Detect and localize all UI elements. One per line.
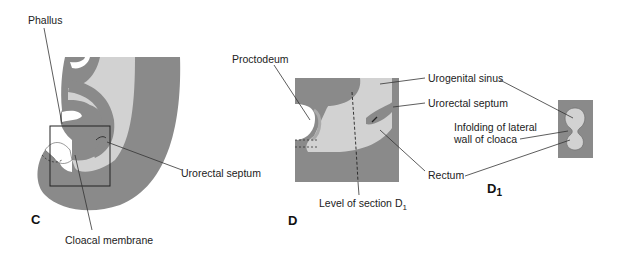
panel-d-illustration	[295, 78, 399, 182]
panel-label-c: C	[31, 212, 41, 227]
label-urogenital-sinus: Urogenital sinus	[428, 72, 503, 84]
embryo-cloaca-diagram: Phallus Urorectal septum Cloacal membran…	[0, 0, 623, 256]
label-infolding-line2: wall of cloaca	[453, 133, 517, 145]
label-level-of-section: Level of section D1	[319, 197, 407, 212]
phallus-leader	[44, 28, 62, 124]
label-urorectal-septum-d: Urorectal septum	[428, 97, 508, 109]
panel-label-d: D	[288, 213, 297, 228]
label-cloacal-membrane: Cloacal membrane	[65, 234, 153, 246]
d1-rectum-leader	[465, 140, 570, 176]
label-proctodeum: Proctodeum	[232, 53, 289, 65]
d1-urogenital-leader	[500, 80, 573, 118]
label-rectum: Rectum	[428, 169, 464, 181]
label-infolding-line1: Infolding of lateral	[454, 121, 537, 133]
panel-label-d1: D1	[487, 181, 502, 198]
panel-c-illustration	[38, 57, 181, 210]
panel-d1-illustration	[558, 100, 593, 158]
label-phallus: Phallus	[28, 14, 62, 26]
label-urorectal-septum-c: Urorectal septum	[181, 167, 261, 179]
